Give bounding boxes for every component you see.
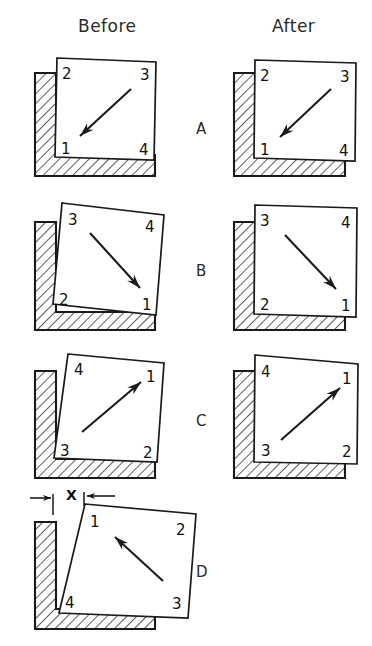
diagram-canvas: 2 3 1 4 2 3 1 4 3 4 2 1 3 4 2 1 4 1 3 2 …	[0, 0, 372, 646]
figure-container: 2 3 1 4 2 3 1 4 3 4 2 1 3 4 2 1 4 1 3 2 …	[0, 0, 372, 646]
row-a-before-group	[35, 58, 156, 176]
corner-label-d-before-bl: 4	[65, 594, 75, 612]
corner-label-a-after-tr: 3	[340, 68, 350, 86]
corner-label-a-before-bl: 1	[61, 140, 71, 158]
corner-label-a-after-bl: 1	[260, 141, 270, 159]
dimension-label-x: X	[66, 487, 77, 503]
corner-label-d-before-br: 3	[172, 595, 182, 613]
corner-label-a-after-br: 4	[339, 142, 349, 160]
row-a-after-group	[234, 60, 356, 176]
corner-label-c-after-tl: 4	[261, 363, 271, 381]
corner-label-b-after-bl: 2	[260, 296, 270, 314]
corner-label-a-before-tr: 3	[140, 66, 150, 84]
row-letter-b: B	[196, 262, 206, 280]
corner-label-b-after-tr: 4	[341, 214, 351, 232]
corner-label-a-after-tl: 2	[260, 67, 270, 85]
row-b-after-group	[234, 205, 357, 330]
row-c-after-group	[234, 355, 358, 478]
corner-label-b-before-tr: 4	[145, 218, 155, 236]
corner-label-b-after-tl: 3	[260, 212, 270, 230]
corner-label-a-before-tl: 2	[62, 65, 72, 83]
corner-label-d-before-tr: 2	[176, 521, 186, 539]
row-letter-c: C	[196, 412, 206, 430]
corner-label-c-before-bl: 3	[60, 442, 70, 460]
corner-label-c-before-tr: 1	[146, 368, 156, 386]
corner-label-b-before-tl: 3	[68, 211, 78, 229]
corner-label-b-before-bl: 2	[59, 291, 69, 309]
column-header-before: Before	[78, 16, 137, 36]
corner-label-c-before-tl: 4	[74, 361, 84, 379]
row-letter-d: D	[196, 563, 208, 581]
corner-label-b-before-br: 1	[142, 296, 152, 314]
row-letter-a: A	[196, 120, 206, 138]
corner-label-b-after-br: 1	[341, 297, 351, 315]
corner-label-c-after-br: 2	[342, 443, 352, 461]
corner-label-c-before-br: 2	[143, 444, 153, 462]
corner-label-d-before-tl: 1	[90, 513, 100, 531]
corner-label-a-before-br: 4	[139, 141, 149, 159]
column-header-after: After	[272, 16, 315, 36]
corner-label-c-after-bl: 3	[261, 442, 271, 460]
corner-label-c-after-tr: 1	[342, 370, 352, 388]
